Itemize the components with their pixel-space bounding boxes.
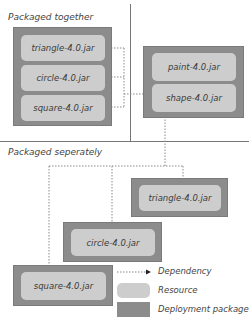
deployment-package-triangle: triangle-4.0.jar (131, 178, 228, 217)
legend-deployment-package-label: Deployment package (158, 304, 249, 314)
resource-paint: paint-4.0.jar (152, 53, 236, 81)
resource-triangle: triangle-4.0.jar (21, 35, 105, 61)
legend-resource-swatch (117, 283, 150, 298)
legend-dependency-label: Dependency (158, 266, 212, 276)
resource-shape: shape-4.0.jar (152, 84, 236, 112)
legend-resource-label: Resource (158, 285, 198, 295)
legend-deployment-package-swatch (117, 302, 150, 317)
deployment-package-square: square-4.0.jar (13, 265, 113, 306)
deployment-package-circle: circle-4.0.jar (63, 222, 162, 262)
resource-square: square-4.0.jar (21, 95, 105, 121)
resource-square-separate: square-4.0.jar (21, 272, 106, 300)
diagram-canvas: Packaged together Packaged seperately (0, 0, 249, 322)
deployment-package-paint-shape: paint-4.0.jar shape-4.0.jar (143, 46, 244, 118)
deployment-package-together: triangle-4.0.jar circle-4.0.jar square-4… (13, 27, 112, 126)
legend-arrowhead (146, 270, 151, 275)
resource-circle-separate: circle-4.0.jar (71, 229, 155, 256)
resource-circle: circle-4.0.jar (21, 65, 105, 91)
resource-triangle-separate: triangle-4.0.jar (139, 185, 221, 211)
